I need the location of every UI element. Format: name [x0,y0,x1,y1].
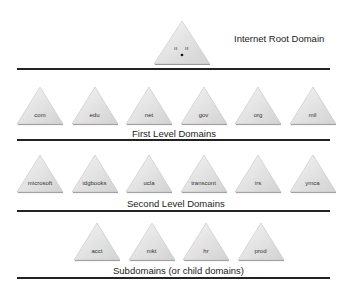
domain-triangle: transcont [180,154,228,194]
domain-triangle: org [234,86,282,126]
root-domain-label: Internet Root Domain [234,33,324,44]
divider-first-level [17,139,330,141]
domain-label: mkt [128,248,176,254]
triangle-icon [289,154,337,194]
domain-triangle: ucla [125,154,173,194]
triangle-icon [289,86,337,126]
first-level-caption: First Level Domains [132,128,216,139]
domain-label: mil [289,112,337,118]
domain-triangle: gov [180,86,228,126]
subdomain-caption: Subdomains (or child domains) [113,265,244,276]
domain-label: org [234,112,282,118]
domain-label: idgbooks [71,180,119,186]
domain-label: ucla [125,180,173,186]
triangle-icon [180,154,228,194]
domain-label: acct [73,248,121,254]
domain-triangle: mkt [128,222,176,262]
domain-label: com [16,112,64,118]
root-domain-triangle: ıı ıı [153,20,211,66]
domain-label: irs [234,180,282,186]
triangle-icon [180,86,228,126]
domain-label: prod [237,248,285,254]
domain-triangle: edu [71,86,119,126]
triangle-icon [71,154,119,194]
triangle-icon [234,154,282,194]
domain-triangle: irs [234,154,282,194]
domain-triangle: prod [237,222,285,262]
domain-label: transcont [180,180,228,186]
triangle-icon [182,222,230,262]
domain-label: net [125,112,173,118]
domain-label: microsoft [16,180,64,186]
domain-triangle: ymca [289,154,337,194]
domain-triangle: idgbooks [71,154,119,194]
triangle-icon [73,222,121,262]
domain-triangle: mil [289,86,337,126]
svg-text:ıı: ıı [174,45,178,51]
triangle-icon [237,222,285,262]
triangle-icon: ıı ıı [153,20,211,66]
domain-triangle: com [16,86,64,126]
divider-subdomain [17,277,330,279]
divider-root [17,68,330,70]
domain-triangle: hr [182,222,230,262]
domain-triangle: acct [73,222,121,262]
triangle-icon [234,86,282,126]
triangle-icon [128,222,176,262]
triangle-icon [71,86,119,126]
triangle-icon [16,86,64,126]
domain-label: gov [180,112,228,118]
domain-label: ymca [289,180,337,186]
triangle-icon [125,154,173,194]
domain-label: hr [182,248,230,254]
triangle-icon [16,154,64,194]
svg-text:ıı: ıı [185,45,189,51]
triangle-icon [125,86,173,126]
divider-second-level [17,210,330,212]
domain-triangle: net [125,86,173,126]
domain-label: edu [71,112,119,118]
second-level-caption: Second Level Domains [127,198,225,209]
domain-triangle: microsoft [16,154,64,194]
